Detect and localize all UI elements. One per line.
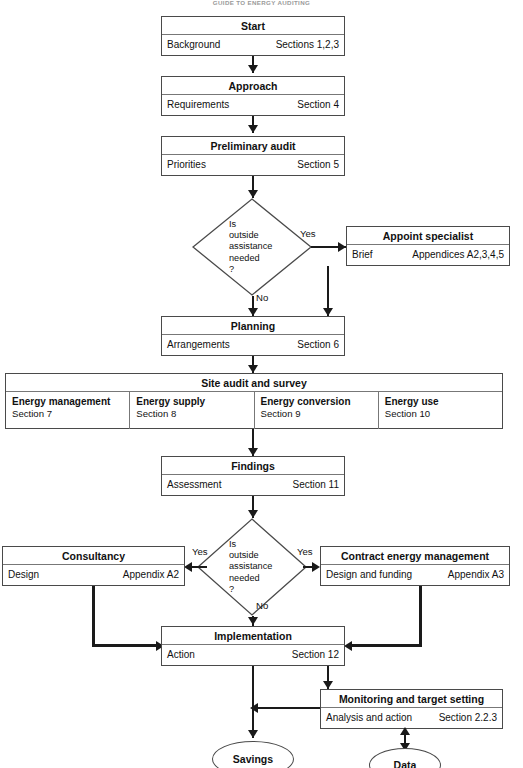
- node-implementation-right: Section 12: [292, 645, 339, 665]
- node-contract-body: Design and funding Appendix A3: [321, 565, 509, 585]
- node-consultancy-left: Design: [8, 565, 39, 585]
- node-consultancy-body: Design Appendix A2: [3, 565, 184, 585]
- node-appoint-specialist-right: Appendices A2,3,4,5: [412, 245, 504, 265]
- edge-label-yes-2a: Yes: [192, 546, 208, 557]
- connector-consultancy-down: [92, 586, 95, 646]
- node-approach-right: Section 4: [297, 95, 339, 115]
- arrowhead-decision1-specialist: [338, 242, 346, 252]
- node-start-body: Background Sections 1,2,3: [162, 35, 344, 55]
- node-consultancy: Consultancy Design Appendix A2: [2, 546, 185, 586]
- col-sub: Section 8: [136, 408, 253, 420]
- node-planning-title: Planning: [162, 317, 344, 335]
- col-sub: Section 10: [385, 408, 502, 420]
- arrowhead-decision1-planning: [248, 308, 258, 316]
- connector-consultancy-right: [92, 644, 162, 647]
- connector-contract-left: [350, 644, 422, 647]
- arrowhead-approach-preliminary: [248, 125, 258, 133]
- node-approach-title: Approach: [162, 77, 344, 95]
- edge-label-yes-2b: Yes: [297, 546, 313, 557]
- site-audit-title: Site audit and survey: [6, 374, 502, 392]
- node-preliminary-audit-title: Preliminary audit: [162, 137, 344, 155]
- node-planning: Planning Arrangements Section 6: [161, 316, 345, 356]
- connector-implementation-savings: [252, 666, 254, 738]
- arrowhead-monitoring-feedback: [250, 703, 258, 713]
- arrowhead-decision2-contract: [312, 562, 320, 572]
- node-findings-title: Findings: [162, 457, 344, 475]
- terminator-data-label: Data: [394, 759, 417, 768]
- site-audit-col-energy-conversion: Energy conversion Section 9: [255, 392, 379, 429]
- node-start-left: Background: [167, 35, 220, 55]
- connector-monitoring-feedback: [258, 707, 320, 709]
- node-contract-left: Design and funding: [326, 565, 412, 585]
- arrowhead-planning-audit: [248, 365, 258, 373]
- node-monitoring-right: Section 2.2.3: [439, 708, 497, 728]
- arrowhead-implementation-monitoring: [323, 681, 333, 689]
- site-audit-col-energy-use: Energy use Section 10: [379, 392, 502, 429]
- node-appoint-specialist-left: Brief: [352, 245, 373, 265]
- node-contract-right: Appendix A3: [448, 565, 504, 585]
- terminator-data: Data: [369, 748, 441, 768]
- arrowhead-preliminary-decision1: [248, 190, 258, 198]
- arrowhead-decision2-consultancy: [184, 562, 192, 572]
- col-title: Energy use: [385, 396, 502, 408]
- node-monitoring-left: Analysis and action: [326, 708, 412, 728]
- edge-label-no-1: No: [256, 292, 268, 303]
- node-preliminary-audit-right: Section 5: [297, 155, 339, 175]
- node-planning-body: Arrangements Section 6: [162, 335, 344, 355]
- decision-outside-assistance-1: Is outside assistance needed ?: [192, 198, 312, 296]
- node-monitoring-title: Monitoring and target setting: [321, 690, 502, 708]
- decision-2-text: Is outside assistance needed ?: [221, 539, 283, 595]
- col-sub: Section 7: [12, 408, 129, 420]
- node-findings-right: Section 11: [292, 475, 339, 495]
- node-findings-left: Assessment: [167, 475, 221, 495]
- node-implementation: Implementation Action Section 12: [161, 626, 345, 666]
- arrowhead-decision2-implementation: [248, 617, 258, 625]
- edge-label-no-2: No: [256, 600, 268, 611]
- site-audit-columns: Energy management Section 7 Energy suppl…: [6, 392, 502, 429]
- node-approach: Approach Requirements Section 4: [161, 76, 345, 116]
- node-monitoring-and-target-setting: Monitoring and target setting Analysis a…: [320, 689, 503, 729]
- arrowhead-findings-decision2: [248, 510, 258, 518]
- node-preliminary-audit-body: Priorities Section 5: [162, 155, 344, 175]
- node-implementation-body: Action Section 12: [162, 645, 344, 665]
- node-consultancy-title: Consultancy: [3, 547, 184, 565]
- arrowhead-contract-implementation: [344, 641, 352, 651]
- arrowhead-data-to-monitoring: [400, 727, 410, 735]
- flowchart-page: GUIDE TO ENERGY AUDITING Start Backgroun…: [0, 0, 523, 768]
- node-site-audit-and-survey: Site audit and survey Energy management …: [5, 373, 503, 429]
- node-approach-body: Requirements Section 4: [162, 95, 344, 115]
- connector-decision2-yes-left: [190, 566, 207, 568]
- node-implementation-title: Implementation: [162, 627, 344, 645]
- node-contract-title: Contract energy management: [321, 547, 509, 565]
- decision-outside-assistance-2: Is outside assistance needed ?: [197, 518, 307, 616]
- node-contract-energy-management: Contract energy management Design and fu…: [320, 546, 510, 586]
- decision-1-text: Is outside assistance needed ?: [221, 219, 283, 275]
- arrowhead-specialist-planning: [323, 308, 333, 316]
- col-title: Energy management: [12, 396, 129, 408]
- node-appoint-specialist-title: Appoint specialist: [347, 227, 509, 245]
- node-preliminary-audit: Preliminary audit Priorities Section 5: [161, 136, 345, 176]
- terminator-savings-label: Savings: [233, 753, 273, 765]
- node-consultancy-right: Appendix A2: [123, 565, 179, 585]
- col-sub: Section 9: [261, 408, 378, 420]
- node-preliminary-audit-left: Priorities: [167, 155, 206, 175]
- node-findings: Findings Assessment Section 11: [161, 456, 345, 496]
- terminator-savings: Savings: [212, 741, 294, 768]
- arrowhead-implementation-savings: [248, 730, 258, 738]
- node-planning-right: Section 6: [297, 335, 339, 355]
- running-head: GUIDE TO ENERGY AUDITING: [0, 0, 523, 6]
- col-title: Energy supply: [136, 396, 253, 408]
- site-audit-col-energy-management: Energy management Section 7: [6, 392, 130, 429]
- node-planning-left: Arrangements: [167, 335, 230, 355]
- node-monitoring-body: Analysis and action Section 2.2.3: [321, 708, 502, 728]
- node-implementation-left: Action: [167, 645, 195, 665]
- node-start: Start Background Sections 1,2,3: [161, 16, 345, 56]
- node-approach-left: Requirements: [167, 95, 229, 115]
- col-title: Energy conversion: [261, 396, 378, 408]
- arrowhead-audit-findings: [248, 448, 258, 456]
- node-findings-body: Assessment Section 11: [162, 475, 344, 495]
- node-start-right: Sections 1,2,3: [276, 35, 339, 55]
- node-appoint-specialist: Appoint specialist Brief Appendices A2,3…: [346, 226, 510, 266]
- site-audit-col-energy-supply: Energy supply Section 8: [130, 392, 254, 429]
- node-start-title: Start: [162, 17, 344, 35]
